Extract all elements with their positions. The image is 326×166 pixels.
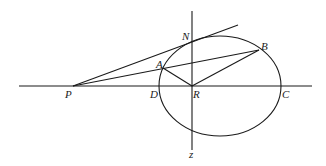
geometry-figure: P D R C A B N z (0, 0, 326, 166)
label-d: D (149, 88, 158, 100)
label-p: P (64, 88, 72, 100)
label-n: N (181, 30, 190, 42)
label-c: C (282, 88, 290, 100)
label-r: R (192, 88, 200, 100)
secant-line-pb (73, 50, 259, 86)
label-z: z (188, 148, 194, 160)
diagram-canvas: P D R C A B N z (0, 0, 326, 166)
label-b: B (261, 40, 268, 52)
segment-ar (163, 68, 192, 86)
segment-br (192, 50, 259, 86)
label-a: A (155, 58, 163, 70)
tangent-line-pn (73, 25, 238, 86)
